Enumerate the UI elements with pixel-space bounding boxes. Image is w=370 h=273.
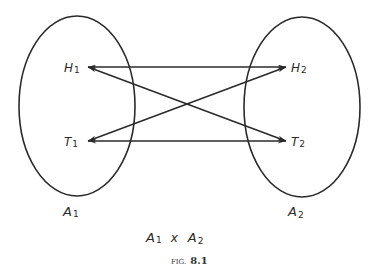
set-a2-ellipse — [244, 17, 360, 197]
label-set-a2: A2 — [287, 204, 304, 220]
product-expression: A1xA2 — [145, 230, 203, 246]
set-a1-ellipse — [19, 16, 135, 196]
label-t1: T1 — [64, 135, 78, 149]
figure-caption: FIG.8.1 — [171, 255, 208, 266]
label-h2: H2 — [291, 61, 307, 75]
label-t2: T2 — [291, 135, 305, 149]
edges — [88, 67, 286, 141]
label-h1: H1 — [64, 61, 80, 75]
label-set-a1: A1 — [62, 204, 79, 219]
cartesian-product-diagram: H1 T1 H2 T2 A1 A2 A1xA2 FIG.8.1 — [0, 0, 370, 273]
